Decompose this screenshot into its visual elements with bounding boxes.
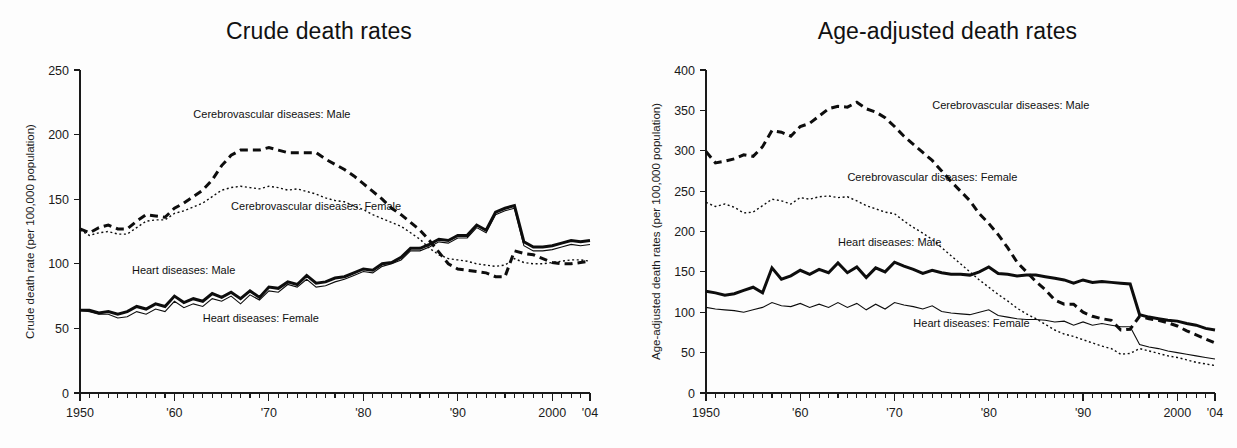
y-tick-label: 0 [688, 387, 695, 401]
series-annotation-2: Cerebrovascular diseases: Female [847, 171, 1017, 183]
plot-area-age-adjusted: 0501001502002503003504001950'60'70'80'90… [618, 0, 1237, 448]
series-annotation-1: Cerebrovascular diseases: Male [193, 108, 350, 120]
y-tick-label: 100 [48, 257, 69, 271]
figure-canvas: Crude death rates 0501001502002501950'60… [0, 0, 1237, 448]
x-tick-label: 1950 [692, 406, 720, 420]
series-line-cerebrovascular-diseases-male [80, 148, 590, 277]
x-tick-label: '04 [582, 406, 598, 420]
y-tick-label: 350 [674, 104, 695, 118]
x-tick-label: '80 [355, 406, 371, 420]
x-tick-label: '70 [886, 406, 902, 420]
y-tick-label: 250 [48, 64, 69, 78]
series-annotation-4: Heart diseases: Female [913, 317, 1029, 329]
x-tick-label: '90 [450, 406, 466, 420]
series-annotation-2: Cerebrovascular diseases: Female [231, 200, 401, 212]
series-annotation-1: Cerebrovascular diseases: Male [932, 99, 1089, 111]
x-tick-label: 1950 [66, 406, 94, 420]
y-tick-label: 0 [62, 387, 69, 401]
series-line-cerebrovascular-diseases-female [80, 186, 590, 266]
y-axis-title: Age-adjusted death rates (per 100,000 po… [650, 103, 662, 360]
x-tick-label: 2000 [1163, 406, 1191, 420]
x-tick-label: 2000 [538, 406, 566, 420]
chart-panel-crude-death-rates: Crude death rates 0501001502002501950'60… [0, 0, 618, 448]
x-tick-label: '80 [981, 406, 997, 420]
y-axis-title: Crude death rate (per 100,000 population… [24, 124, 36, 339]
series-line-heart-diseases-male [80, 206, 590, 315]
y-tick-label: 300 [674, 144, 695, 158]
plot-area-crude: 0501001502002501950'60'70'80'902000'04Cr… [0, 0, 618, 448]
chart-svg-age-adjusted: 0501001502002503003504001950'60'70'80'90… [618, 0, 1237, 448]
y-tick-label: 150 [674, 265, 695, 279]
y-tick-label: 150 [48, 193, 69, 207]
x-tick-label: '60 [166, 406, 182, 420]
y-tick-label: 200 [674, 225, 695, 239]
chart-panel-age-adjusted-death-rates: Age-adjusted death rates 050100150200250… [618, 0, 1237, 448]
x-tick-label: '60 [792, 406, 808, 420]
y-tick-label: 100 [674, 306, 695, 320]
x-tick-label: '90 [1075, 406, 1091, 420]
x-tick-label: '04 [1207, 406, 1223, 420]
y-tick-label: 200 [48, 128, 69, 142]
series-annotation-3: Heart diseases: Male [132, 264, 235, 276]
y-tick-label: 400 [674, 64, 695, 78]
y-tick-label: 250 [674, 185, 695, 199]
chart-svg-crude: 0501001502002501950'60'70'80'902000'04Cr… [0, 0, 618, 448]
series-line-cerebrovascular-diseases-female [706, 196, 1215, 366]
y-tick-label: 50 [55, 322, 69, 336]
x-tick-label: '70 [261, 406, 277, 420]
series-annotation-3: Heart diseases: Male [838, 236, 941, 248]
y-tick-label: 50 [681, 346, 695, 360]
series-annotation-4: Heart diseases: Female [203, 312, 319, 324]
